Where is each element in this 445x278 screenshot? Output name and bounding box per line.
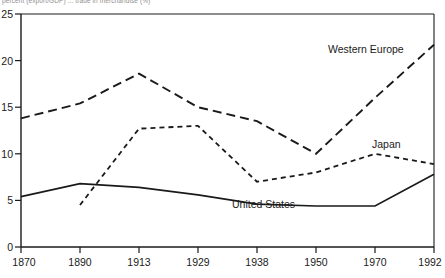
x-axis-ticks: 1870 1890 1913 1929 1938 1950 1970 1992 <box>12 247 442 268</box>
y-tick-label-20: 20 <box>1 55 13 67</box>
x-tick-label-1890: 1890 <box>68 256 92 268</box>
y-tick-label-0: 0 <box>7 241 13 253</box>
x-tick-label-1992: 1992 <box>418 256 442 268</box>
series-label-japan: Japan <box>372 138 401 150</box>
x-tick-label-1913: 1913 <box>127 256 151 268</box>
y-tick-label-10: 10 <box>1 148 13 160</box>
series-label-united-states: United States <box>232 198 295 210</box>
x-tick-label-1929: 1929 <box>186 256 210 268</box>
y-tick-label-15: 15 <box>1 101 13 113</box>
series-label-western-europe: Western Europe <box>328 43 404 55</box>
y-axis-ticks: 0 5 10 15 20 25 <box>1 8 21 253</box>
chart-annotations: Western Europe Japan United States <box>232 43 404 210</box>
y-tick-label-5: 5 <box>7 194 13 206</box>
x-tick-label-1950: 1950 <box>304 256 328 268</box>
y-tick-label-25: 25 <box>1 8 13 20</box>
x-tick-label-1870: 1870 <box>12 256 36 268</box>
line-chart-plot: 0 5 10 15 20 25 1870 1890 1913 1929 1938… <box>0 0 445 278</box>
x-tick-label-1938: 1938 <box>245 256 269 268</box>
x-tick-label-1970: 1970 <box>363 256 387 268</box>
chart-figure: percent (export/GDP) ... trade in mercha… <box>0 0 445 278</box>
chart-series-lines <box>21 45 434 206</box>
